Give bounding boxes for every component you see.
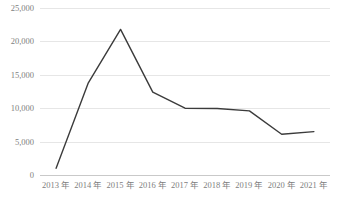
y-axis-tick-label: 10,000 <box>0 104 34 113</box>
series-line <box>56 29 314 168</box>
x-axis-tick-label: 2018 年 <box>203 180 231 190</box>
x-axis-tick-label: 2014 年 <box>74 180 102 190</box>
y-axis-tick-label: 0 <box>0 171 34 180</box>
x-axis-tick-label: 2019 年 <box>235 180 263 190</box>
line-chart: 25,000 20,000 15,000 10,000 5,000 0 2013… <box>0 0 342 200</box>
x-axis-tick-label: 2013 年 <box>42 180 70 190</box>
y-axis-tick-label: 5,000 <box>0 138 34 147</box>
x-axis-tick-label: 2016 年 <box>139 180 167 190</box>
x-axis: 2013 年 2014 年 2015 年 2016 年 2017 年 2018 … <box>40 180 330 198</box>
y-axis-tick-label: 20,000 <box>0 37 34 46</box>
x-axis-tick-label: 2020 年 <box>268 180 296 190</box>
y-axis-tick-label: 15,000 <box>0 71 34 80</box>
x-axis-line <box>40 175 330 176</box>
plot-area <box>40 8 330 175</box>
y-axis-tick-label: 25,000 <box>0 4 34 13</box>
x-axis-tick-label: 2015 年 <box>107 180 135 190</box>
x-axis-tick-label: 2021 年 <box>300 180 328 190</box>
series-line-chart-svg <box>40 8 330 175</box>
x-axis-tick-label: 2017 年 <box>171 180 199 190</box>
